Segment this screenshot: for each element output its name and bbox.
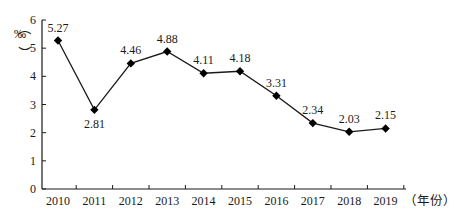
y-tick-label: 4 (30, 69, 36, 83)
data-point-diamond (345, 128, 353, 136)
data-label: 4.11 (193, 53, 214, 67)
x-tick-label: 2019 (374, 194, 398, 208)
data-label: 3.31 (266, 76, 287, 90)
data-point-diamond (163, 47, 171, 55)
x-tick-label: 2011 (83, 194, 107, 208)
data-point-diamond (381, 124, 389, 132)
x-tick-label: 2017 (301, 194, 325, 208)
y-tick-label: 3 (30, 98, 36, 112)
data-label: 2.15 (375, 108, 396, 122)
data-label: 2.34 (302, 103, 323, 117)
data-point-diamond (236, 67, 244, 75)
data-labels: 5.272.814.464.884.114.183.312.342.032.15 (48, 21, 397, 131)
axes: 0123456201020112012201320142015201620172… (30, 13, 406, 208)
x-tick-label: 2016 (264, 194, 288, 208)
y-axis-unit-label: ‰ (14, 27, 26, 41)
y-tick-label: 1 (30, 154, 36, 168)
x-tick-label: 2018 (337, 194, 361, 208)
x-tick-label: 2010 (46, 194, 70, 208)
y-tick-label: 2 (30, 126, 36, 140)
x-tick-label: 2015 (228, 194, 252, 208)
x-tick-label: 2014 (192, 194, 216, 208)
data-label: 4.88 (157, 32, 178, 46)
y-tick-label: 0 (30, 182, 36, 196)
data-label: 4.46 (120, 43, 141, 57)
x-tick-label: 2012 (119, 194, 143, 208)
x-axis-unit-label: （年份） (404, 194, 456, 208)
y-axis-unit-close: ） (17, 46, 32, 59)
data-label: 2.81 (84, 117, 105, 131)
data-label: 4.18 (230, 51, 251, 65)
data-label: 2.03 (339, 112, 360, 126)
data-label: 5.27 (48, 21, 69, 35)
line-chart: 0123456201020112012201320142015201620172… (0, 0, 456, 221)
data-line (58, 41, 386, 132)
data-point-diamond (199, 69, 207, 77)
data-point-diamond (54, 36, 62, 44)
x-tick-label: 2013 (155, 194, 179, 208)
